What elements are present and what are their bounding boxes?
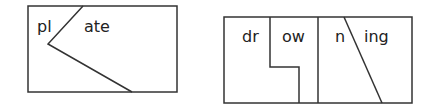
piece-dr: dr xyxy=(242,27,259,46)
word-split-diagrams: pl ate dr ow n ing xyxy=(0,0,434,110)
drowning-diagram: dr ow n ing xyxy=(224,17,412,103)
piece-pl: pl xyxy=(37,17,52,36)
piece-n: n xyxy=(335,27,345,46)
piece-ate: ate xyxy=(84,17,110,36)
piece-ow: ow xyxy=(282,27,305,46)
plate-diagram: pl ate xyxy=(28,6,177,92)
piece-ing: ing xyxy=(364,27,389,46)
